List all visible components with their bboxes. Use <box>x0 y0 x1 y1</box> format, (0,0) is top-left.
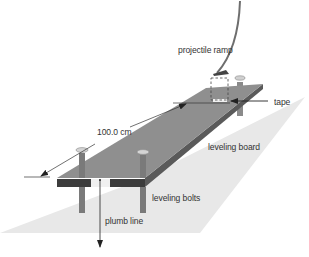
label-plumb-line: plumb line <box>105 215 143 226</box>
label-leveling-bolts: leveling bolts <box>152 192 200 203</box>
label-leveling-board: leveling board <box>208 141 260 152</box>
label-distance: 100.0 cm <box>97 126 131 137</box>
tape-back <box>213 99 227 102</box>
label-projectile-ramp: projectile ramp <box>178 44 233 55</box>
leveling-board-diagram <box>0 0 309 257</box>
label-tape: tape <box>274 96 290 107</box>
